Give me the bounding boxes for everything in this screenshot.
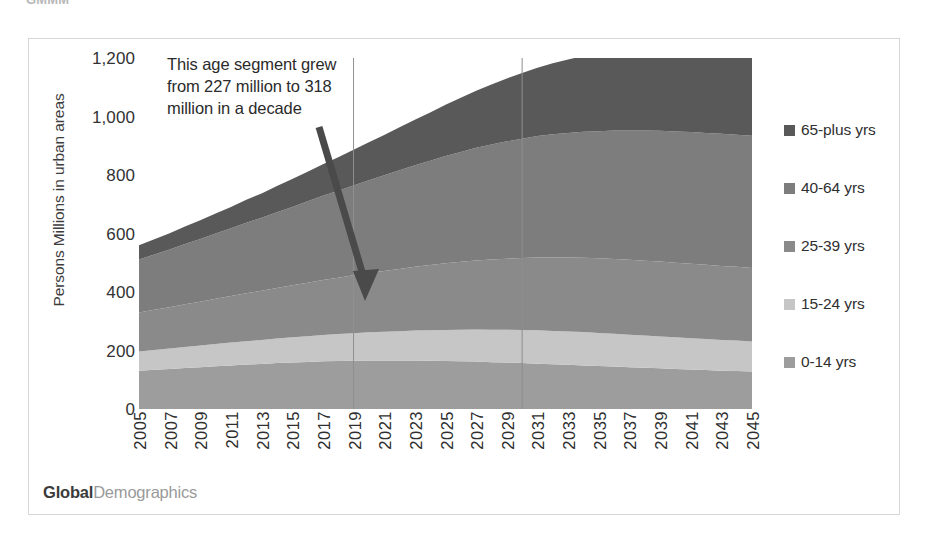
x-tick-label: 2033 (560, 411, 579, 450)
x-tick-label: 2041 (683, 411, 702, 450)
x-tick-label: 2027 (468, 411, 487, 450)
x-tick-label: 2007 (162, 411, 181, 450)
chart-container: Persons Millions in urban areas 02004006… (28, 38, 900, 515)
legend-item[interactable]: 0-14 yrs (784, 333, 904, 391)
brand-secondary: Demographics (93, 483, 197, 501)
brand-primary: Global (43, 483, 93, 501)
scan-artifact-text: GMMM (26, 0, 69, 6)
x-tick-label: 2013 (254, 411, 273, 450)
chart-annotation: This age segment grew from 227 million t… (167, 54, 342, 120)
legend-swatch-icon (784, 357, 795, 368)
x-tick-label: 2011 (223, 411, 242, 448)
x-tick-label: 2039 (652, 411, 671, 450)
x-axis-ticks: 2005200720092011201320152017201920212023… (139, 411, 752, 481)
x-tick-label: 2021 (376, 411, 395, 450)
x-tick-label: 2015 (284, 411, 303, 450)
y-tick-label: 800 (71, 167, 135, 184)
y-tick-label: 1,000 (71, 108, 135, 125)
y-tick-label: 200 (71, 342, 135, 359)
legend-label: 25-39 yrs (801, 237, 865, 255)
legend-swatch-icon (784, 241, 795, 252)
x-tick-label: 2045 (744, 411, 763, 450)
legend-swatch-icon (784, 183, 795, 194)
legend-label: 40-64 yrs (801, 179, 865, 197)
chart-legend: 65-plus yrs40-64 yrs25-39 yrs15-24 yrs0-… (784, 101, 904, 391)
legend-item[interactable]: 15-24 yrs (784, 275, 904, 333)
x-tick-label: 2029 (499, 411, 518, 450)
legend-item[interactable]: 25-39 yrs (784, 217, 904, 275)
legend-swatch-icon (784, 299, 795, 310)
x-tick-label: 2009 (192, 411, 211, 450)
x-tick-label: 2005 (131, 411, 150, 450)
x-tick-label: 2025 (438, 411, 457, 450)
x-tick-label: 2037 (621, 411, 640, 450)
y-tick-label: 0 (71, 401, 135, 418)
legend-label: 65-plus yrs (801, 121, 876, 139)
legend-item[interactable]: 65-plus yrs (784, 101, 904, 159)
legend-label: 15-24 yrs (801, 295, 865, 313)
brand-logo: GlobalDemographics (43, 483, 197, 502)
x-tick-label: 2043 (713, 411, 732, 450)
x-tick-label: 2023 (407, 411, 426, 450)
x-tick-label: 2035 (591, 411, 610, 450)
y-tick-label: 600 (71, 225, 135, 242)
legend-item[interactable]: 40-64 yrs (784, 159, 904, 217)
y-tick-label: 1,200 (71, 50, 135, 67)
x-tick-label: 2019 (346, 411, 365, 450)
x-tick-label: 2031 (529, 411, 548, 450)
y-tick-label: 400 (71, 284, 135, 301)
legend-label: 0-14 yrs (801, 353, 856, 371)
x-tick-label: 2017 (315, 411, 334, 450)
y-axis-title: Persons Millions in urban areas (50, 50, 68, 350)
legend-swatch-icon (784, 125, 795, 136)
y-axis-ticks: 02004006008001,0001,200 (67, 39, 135, 516)
